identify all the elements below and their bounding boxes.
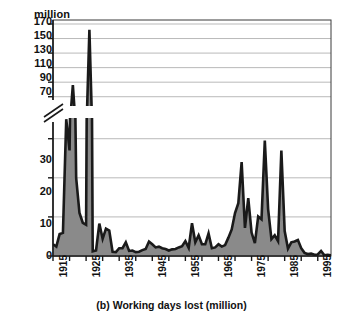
chart-caption: (b) Working days lost (million) xyxy=(0,299,343,311)
chart-container: million 170 150 130 110 90 70 30 20 10 0 xyxy=(0,0,343,325)
x-tick-label-1995: 1995 xyxy=(322,255,333,277)
x-tick-label-1985: 1985 xyxy=(289,255,300,277)
x-tick-label-1935: 1935 xyxy=(124,255,135,277)
x-tick-label-1945: 1945 xyxy=(157,255,168,277)
x-tick-label-1965: 1965 xyxy=(223,255,234,277)
x-tick-label-1955: 1955 xyxy=(190,255,201,277)
area-outline-upper xyxy=(53,30,331,148)
axis-break-icon xyxy=(44,100,63,122)
gridlines xyxy=(53,24,331,217)
x-tick-label-1915: 1915 xyxy=(58,255,69,277)
series-lower-panel xyxy=(53,0,331,264)
x-tick-label-1925: 1925 xyxy=(91,255,102,277)
x-tick-label-1975: 1975 xyxy=(256,255,267,277)
plot-frame xyxy=(53,20,331,256)
